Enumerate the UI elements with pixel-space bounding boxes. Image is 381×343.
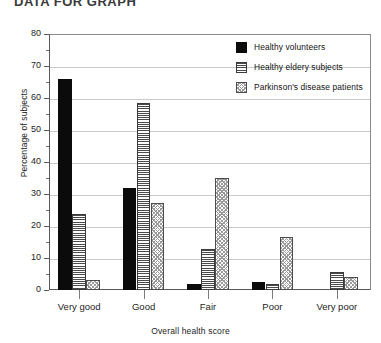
bar [201,249,215,290]
bar [137,103,151,290]
x-tick [272,290,273,299]
legend-item: Parkinson's disease patients [236,82,376,93]
y-tick-major [44,290,49,291]
x-tick [208,290,209,299]
x-tick [144,290,145,299]
legend-label: Healthy volunteers [254,42,325,53]
x-category-label: Very poor [316,301,357,312]
bar [187,284,201,290]
x-category-label: Good [132,301,155,312]
bar [330,272,344,290]
legend-swatch-icon [236,62,247,73]
x-tick [337,290,338,299]
caption-fragment: DATA FOR GRAPH [14,0,214,6]
x-axis-title: Overall health score [0,326,381,336]
legend-swatch-icon [236,42,247,53]
bar [86,280,100,290]
y-tick-label: 80 [17,29,41,38]
bar-chart: DATA FOR GRAPH 01020304050607080 Percent… [0,0,381,343]
legend-item: Healthy volunteers [236,42,376,53]
bar [151,203,165,290]
bar [123,188,137,290]
bar [58,79,72,290]
x-category-label: Poor [262,301,282,312]
legend: Healthy volunteersHealthy eldery subject… [236,42,376,102]
y-tick-label: 10 [17,253,41,262]
y-tick-label: 0 [17,285,41,294]
x-tick [79,290,80,299]
x-category-label: Very good [58,301,101,312]
bar [344,277,358,290]
x-category-label: Fair [200,301,216,312]
legend-swatch-icon [236,82,247,93]
y-axis-title: Percentage of subjects [19,63,29,203]
bar [252,282,266,290]
bar [215,178,229,290]
legend-item: Healthy eldery subjects [236,62,376,73]
legend-label: Parkinson's disease patients [254,82,363,93]
bar [72,214,86,290]
legend-label: Healthy eldery subjects [254,62,343,73]
y-tick-label: 20 [17,221,41,230]
bar [280,237,294,290]
